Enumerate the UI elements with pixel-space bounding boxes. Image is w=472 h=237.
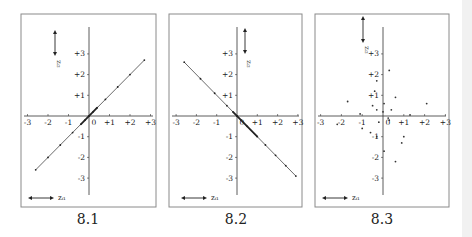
data-point [388,70,390,72]
data-point [390,109,392,111]
x-tick-label: -2 [193,118,201,127]
arrow-left-head-icon [322,196,326,200]
arrow-down-head-icon [53,52,57,56]
x-tick-label: +3 [440,118,451,127]
data-point [336,123,338,125]
x-variable-label: zᵢ₁ [352,194,360,202]
x-tick-label: 0 [240,118,245,127]
x-tick-label: +1 [252,118,263,127]
data-point [295,175,297,177]
data-point [232,111,234,113]
data-point [376,136,378,138]
x-tick-label: -1 [359,118,366,127]
y-tick-label: -3 [372,174,380,183]
data-point [403,136,405,138]
x-tick-label: +1 [398,118,409,127]
data-point [374,90,376,92]
y-variable-label: zᵢ₂ [245,60,253,68]
data-point [275,154,277,156]
data-point [285,165,287,167]
y-tick-label: -2 [372,153,380,162]
data-point [96,107,98,109]
data-point [105,99,107,101]
x-tick-label: -2 [44,118,52,127]
x-variable-label: zᵢ₁ [58,194,66,202]
y-tick-label: +3 [74,49,85,58]
data-line-dense [233,112,257,137]
data-point [376,80,378,82]
data-line [184,62,296,176]
data-point [84,119,86,121]
y-variable-label: zᵢ₂ [55,60,63,68]
data-point [347,101,349,103]
arrow-right-head-icon [344,196,348,200]
caption-8-2: 8.2 [206,211,266,227]
arrow-down-head-icon [361,39,365,43]
y-tick-label: -1 [78,132,85,141]
x-tick-label: +1 [104,118,115,127]
data-point [383,150,385,152]
data-point [370,132,372,134]
data-point [47,157,49,159]
data-point [359,113,361,115]
plot-frame [169,14,302,207]
data-point [383,103,385,105]
x-tick-label: +3 [145,118,156,127]
data-point [246,125,248,127]
caption-8-3: 8.3 [352,211,412,227]
data-point [129,74,131,76]
caption-8-1: 8.1 [58,211,118,227]
plot-frame [315,14,449,207]
arrow-right-head-icon [203,196,207,200]
arrow-left-head-icon [28,196,32,200]
y-tick-label: +1 [222,91,233,100]
arrow-up-head-icon [53,30,57,34]
x-tick-label: -3 [317,118,325,127]
data-point [372,105,374,107]
data-point [395,96,397,98]
y-tick-label: -2 [226,153,234,162]
data-point [376,109,378,111]
y-tick-label: +1 [368,91,379,100]
y-tick-label: -1 [226,132,233,141]
y-tick-label: -3 [78,174,86,183]
x-tick-label: -1 [213,118,220,127]
y-variable-label: zᵢ₂ [363,46,371,54]
data-point [143,59,145,61]
x-tick-label: 0 [386,118,391,127]
data-point [183,61,185,63]
data-point [200,78,202,80]
data-point [92,111,94,113]
y-tick-label: +2 [222,70,233,79]
x-tick-label: +2 [419,118,430,127]
y-tick-label: -1 [372,132,379,141]
x-tick-label: +3 [292,118,303,127]
x-tick-label: -2 [338,118,346,127]
data-point [256,136,258,138]
data-point [35,169,37,171]
chart-panel-8-1: -3-2-10+1+2+3+3+2+1-1-2-3zᵢ₂zᵢ₁ [0,0,160,210]
data-point [361,128,363,130]
data-point [382,111,384,113]
data-point [378,121,380,123]
x-tick-label: +2 [272,118,283,127]
data-point [72,132,74,134]
arrow-left-head-icon [181,196,185,200]
data-point [401,142,403,144]
data-point [59,144,61,146]
data-point [226,105,228,107]
data-point [236,115,238,117]
data-point [395,161,397,163]
y-tick-label: -3 [226,174,234,183]
arrow-up-head-icon [243,28,247,32]
y-tick-label: +3 [222,49,233,58]
x-tick-label: -3 [172,118,180,127]
x-tick-label: +2 [124,118,135,127]
data-point [214,92,216,94]
x-tick-label: -1 [65,118,72,127]
data-point [265,144,267,146]
arrow-right-head-icon [50,196,54,200]
data-point [388,119,390,121]
y-tick-label: -2 [78,153,86,162]
x-tick-label: 0 [92,118,97,127]
